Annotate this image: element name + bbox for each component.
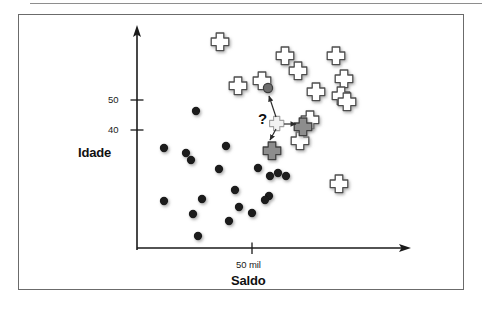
scatter-plot-svg bbox=[0, 0, 482, 318]
plot-area: ? 50 40 Idade 50 mil Saldo bbox=[0, 0, 482, 318]
y-axis bbox=[131, 25, 144, 250]
arrow-to-lower-cross-neighbour bbox=[270, 129, 276, 140]
diagram-page: ? 50 40 Idade 50 mil Saldo bbox=[0, 0, 482, 318]
neighbour-cross-below bbox=[263, 142, 281, 160]
series-crosses bbox=[211, 33, 356, 193]
query-point-marker bbox=[270, 116, 284, 130]
y-tick-label-40: 40 bbox=[108, 124, 118, 135]
x-tick-label-50-mil: 50 mil bbox=[236, 259, 261, 270]
y-tick-label-50: 50 bbox=[108, 94, 118, 105]
arrow-to-circle-neighbour bbox=[269, 96, 276, 117]
neighbour-arrows bbox=[269, 96, 296, 140]
y-axis-label-idade: Idade bbox=[78, 145, 111, 160]
x-axis bbox=[137, 243, 411, 255]
x-axis-label-saldo: Saldo bbox=[231, 273, 265, 288]
neighbour-circle-point bbox=[263, 83, 272, 92]
query-question-mark: ? bbox=[258, 111, 267, 126]
